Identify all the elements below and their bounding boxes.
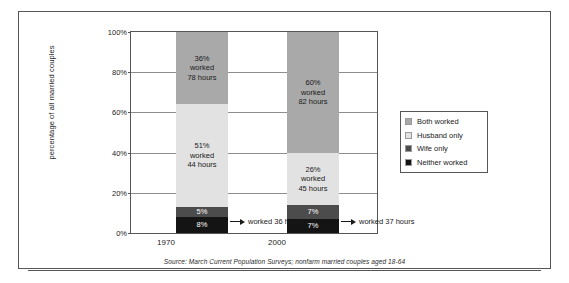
annotation-text: worked 36 hours xyxy=(248,217,303,226)
legend-swatch-icon xyxy=(405,145,412,152)
bar-2000[interactable]: 60% worked 82 hours 26% worked 45 hours … xyxy=(287,32,339,233)
legend-swatch-icon xyxy=(405,118,412,125)
chart-frame: percentage of all married couples 100% 8… xyxy=(18,11,551,269)
segment-hours: 45 hours xyxy=(298,184,327,194)
source-note: Source: March Current Population Surveys… xyxy=(19,258,550,265)
y-tickmark xyxy=(128,233,131,234)
segment-worked: worked xyxy=(301,88,325,98)
y-tickmark xyxy=(128,153,131,154)
gridline xyxy=(131,153,377,154)
segment-hours: 82 hours xyxy=(298,97,327,107)
segment-wife-only-1970[interactable]: 5% xyxy=(176,207,228,217)
source-divider xyxy=(28,270,541,271)
legend-item-husband-only[interactable]: Husband only xyxy=(405,131,482,140)
y-tickmark xyxy=(128,32,131,33)
chart-page: percentage of all married couples 100% 8… xyxy=(0,0,569,283)
gridline xyxy=(131,112,377,113)
segment-both-worked-1970[interactable]: 36% worked 78 hours xyxy=(176,32,228,104)
legend: Both worked Husband only Wife only Neith… xyxy=(400,111,488,173)
segment-pct: 5% xyxy=(197,207,208,217)
y-tickmark xyxy=(128,193,131,194)
legend-label: Wife only xyxy=(417,144,448,153)
segment-neither-worked-1970[interactable]: 8% xyxy=(176,217,228,233)
segment-husband-only-2000[interactable]: 26% worked 45 hours xyxy=(287,153,339,205)
annotation-2000-wife-hours: worked 37 hours xyxy=(341,217,414,226)
segment-worked: worked xyxy=(301,174,325,184)
segment-pct: 26% xyxy=(305,165,320,175)
x-tick-label-2000: 2000 xyxy=(237,238,317,247)
segment-hours: 44 hours xyxy=(187,160,216,170)
legend-item-both-worked[interactable]: Both worked xyxy=(405,117,482,126)
y-tick-label: 40% xyxy=(112,148,127,157)
segment-pct: 7% xyxy=(308,221,319,231)
segment-pct: 7% xyxy=(308,207,319,217)
legend-item-neither-worked[interactable]: Neither worked xyxy=(405,158,482,167)
legend-swatch-icon xyxy=(405,132,412,139)
segment-pct: 8% xyxy=(197,220,208,230)
legend-label: Both worked xyxy=(417,117,459,126)
segment-worked: worked xyxy=(190,63,214,73)
plot-area: 100% 80% 60% 40% 20% xyxy=(130,31,378,234)
y-axis-title: percentage of all married couples xyxy=(47,23,56,183)
y-tick-label: 20% xyxy=(112,188,127,197)
segment-husband-only-1970[interactable]: 51% worked 44 hours xyxy=(176,104,228,207)
segment-pct: 51% xyxy=(194,141,209,151)
arrow-left-icon xyxy=(341,218,356,225)
bar-1970[interactable]: 36% worked 78 hours 51% worked 44 hours … xyxy=(176,32,228,233)
segment-worked: worked xyxy=(190,151,214,161)
segment-hours: 78 hours xyxy=(187,73,216,83)
y-tickmark xyxy=(128,72,131,73)
arrow-left-icon xyxy=(230,218,245,225)
legend-swatch-icon xyxy=(405,159,412,166)
y-tick-label: 100% xyxy=(108,28,127,37)
y-tick-label: 80% xyxy=(112,68,127,77)
y-tick-label: 0% xyxy=(116,229,127,238)
segment-pct: 36% xyxy=(194,54,209,64)
gridline xyxy=(131,193,377,194)
gridline xyxy=(131,72,377,73)
legend-label: Neither worked xyxy=(417,158,467,167)
x-tick-label-1970: 1970 xyxy=(126,238,206,247)
y-tickmark xyxy=(128,112,131,113)
annotation-text: worked 37 hours xyxy=(359,217,414,226)
y-tick-label: 60% xyxy=(112,108,127,117)
segment-both-worked-2000[interactable]: 60% worked 82 hours xyxy=(287,32,339,153)
annotation-1970-wife-hours: worked 36 hours xyxy=(230,217,303,226)
legend-label: Husband only xyxy=(417,131,463,140)
segment-pct: 60% xyxy=(305,78,320,88)
legend-item-wife-only[interactable]: Wife only xyxy=(405,144,482,153)
